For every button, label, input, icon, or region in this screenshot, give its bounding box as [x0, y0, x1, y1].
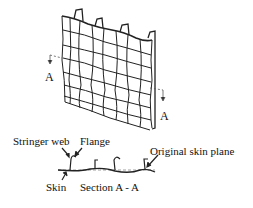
section-marker-right: A [160, 110, 169, 122]
panel-drawing [0, 0, 253, 208]
flange-label: Flange [80, 136, 110, 147]
original-skin-plane-label: Original skin plane [150, 146, 234, 157]
section-title-label: Section A - A [80, 182, 139, 193]
skin-label: Skin [46, 182, 66, 193]
skin-panel [62, 9, 155, 130]
section-aa-drawing [58, 148, 158, 180]
stringer-web-label: Stringer web [13, 136, 70, 147]
stiffened-panel-diagram: A A Stringer web Flange Original skin pl… [0, 0, 253, 208]
section-marker-left: A [45, 71, 54, 83]
